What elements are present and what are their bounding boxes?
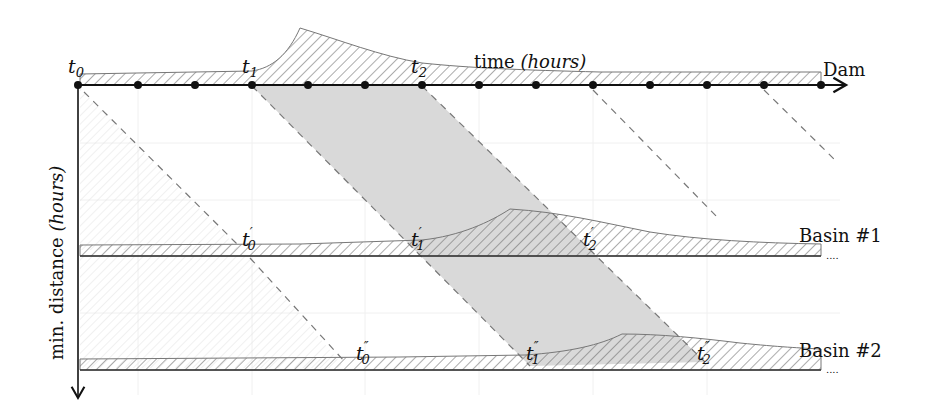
label-t0-double-prime: t″0 bbox=[356, 339, 370, 367]
propagation-diagram: .... .... t0 t1 t2 time (hours) Dam t′0 … bbox=[0, 0, 945, 417]
label-t1: t1 bbox=[242, 55, 258, 80]
dam-hydrograph bbox=[80, 28, 821, 85]
basin2-label: Basin #2 bbox=[799, 340, 882, 361]
label-t0: t0 bbox=[68, 55, 84, 80]
distance-axis-label: min. distance (hours) bbox=[46, 166, 67, 360]
label-t1-double-prime: t″1 bbox=[526, 339, 540, 367]
label-t2: t2 bbox=[411, 55, 427, 80]
label-t2-double-prime: t″2 bbox=[697, 339, 711, 367]
basin1-trailing: .... bbox=[826, 250, 839, 261]
basin1-label: Basin #1 bbox=[799, 225, 882, 246]
basin2-trailing: .... bbox=[826, 364, 839, 375]
label-t0-prime: t′0 bbox=[242, 225, 256, 253]
dam-label: Dam bbox=[823, 59, 865, 80]
time-axis-label: time (hours) bbox=[474, 51, 586, 72]
